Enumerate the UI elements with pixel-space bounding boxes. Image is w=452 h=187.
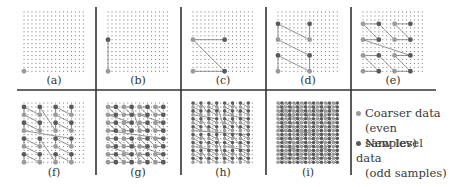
panel-g bbox=[106, 103, 168, 165]
panel-label-e: (e) bbox=[363, 74, 423, 87]
panel-label-b: (b) bbox=[108, 74, 168, 87]
panel-label-g: (g) bbox=[108, 166, 168, 179]
panel-label-a: (a) bbox=[24, 74, 84, 87]
panel-e bbox=[361, 12, 423, 74]
panel-a bbox=[22, 12, 84, 74]
panel-label-i: (i) bbox=[278, 166, 338, 179]
panel-b bbox=[106, 12, 168, 74]
panel-label-c: (c) bbox=[193, 74, 253, 87]
panel-f bbox=[22, 103, 84, 165]
new-dot-icon bbox=[356, 141, 361, 146]
panel-d bbox=[276, 12, 338, 74]
legend-new-sub: (odd samples) bbox=[356, 166, 452, 181]
panel-c bbox=[191, 12, 253, 74]
legend-new-label: New level data bbox=[356, 136, 423, 165]
panel-i bbox=[276, 101, 339, 164]
coarse-dot-icon bbox=[356, 111, 361, 116]
panel-label-h: (h) bbox=[193, 166, 253, 179]
panel-label-d: (d) bbox=[278, 74, 338, 87]
panel-label-f: (f) bbox=[24, 166, 84, 179]
panel-h bbox=[191, 101, 253, 164]
legend-new: New level data (odd samples) bbox=[356, 136, 452, 181]
legend-coarser-label: Coarser data bbox=[365, 106, 441, 120]
